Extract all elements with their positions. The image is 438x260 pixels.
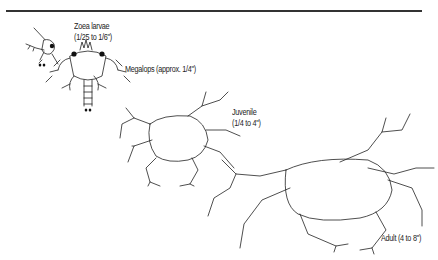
juvenile-crab-drawing bbox=[120, 92, 240, 186]
crab-life-cycle-illustration bbox=[0, 0, 438, 260]
zoea-larva-drawing bbox=[26, 28, 58, 67]
juvenile-name: Juvenile bbox=[232, 107, 261, 118]
megalops-label: Megalops (approx. 1/4") bbox=[125, 64, 196, 75]
megalops-drawing bbox=[46, 40, 130, 112]
zoea-larvae-label: Zoea larvae (1/25 to 1/6") bbox=[74, 21, 112, 43]
zoea-larvae-name: Zoea larvae bbox=[74, 21, 112, 32]
megalops-text: Megalops (approx. 1/4") bbox=[125, 64, 196, 74]
adult-text: Adult (4 to 8") bbox=[381, 233, 421, 243]
juvenile-label: Juvenile (1/4 to 4") bbox=[232, 107, 261, 129]
zoea-larvae-size: (1/25 to 1/6") bbox=[74, 32, 112, 43]
juvenile-size: (1/4 to 4") bbox=[232, 118, 261, 129]
adult-label: Adult (4 to 8") bbox=[381, 233, 421, 244]
